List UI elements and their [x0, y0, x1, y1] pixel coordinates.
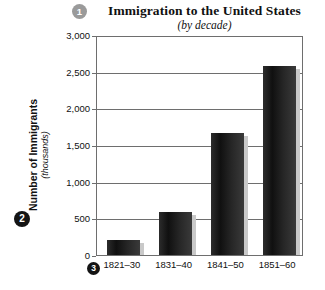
y-axis-tick-label: 1,500: [44, 140, 90, 151]
plot-area: [96, 36, 303, 256]
y-axis-title: Number of Immigrants (thousands): [22, 75, 56, 235]
x-axis-tick-label: 1851–60: [251, 259, 303, 270]
x-axis-tick-label: 1841–50: [200, 259, 252, 270]
x-axis-tick-label: 1821–30: [96, 259, 148, 270]
y-axis-title-main: Number of Immigrants: [28, 99, 40, 211]
bar: [107, 240, 140, 255]
y-axis-tick-label: 0: [44, 250, 90, 261]
x-axis-tick-label: 1831–40: [148, 259, 200, 270]
chart-title: Immigration to the United States: [92, 3, 317, 19]
chart-subtitle: (by decade): [92, 19, 317, 31]
bar: [159, 212, 192, 255]
y-axis-tick-label: 1,000: [44, 177, 90, 188]
y-axis-tick-mark: [92, 256, 96, 257]
bar: [263, 66, 296, 255]
bar: [211, 133, 244, 255]
y-axis-tick-label: 2,500: [44, 67, 90, 78]
y-axis-tick-label: 3,000: [44, 30, 90, 41]
chart-figure: 1 2 3 Immigration to the United States (…: [0, 0, 325, 290]
callout-badge-1: 1: [72, 4, 87, 19]
y-axis-title-unit: (thousands): [40, 131, 50, 179]
y-axis-tick-label: 500: [44, 213, 90, 224]
y-axis-tick-label: 2,000: [44, 103, 90, 114]
